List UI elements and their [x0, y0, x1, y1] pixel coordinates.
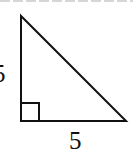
vertical-leg-label: 5 [0, 61, 6, 86]
triangle-diagram [0, 0, 133, 162]
horizontal-leg-label: 5 [69, 128, 82, 153]
right-angle-marker [21, 103, 39, 121]
right-triangle [21, 16, 126, 121]
